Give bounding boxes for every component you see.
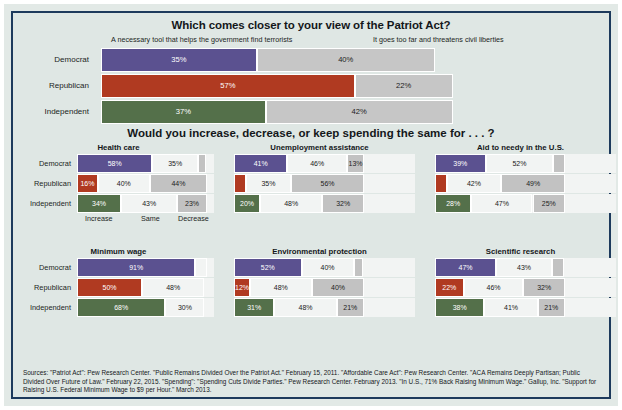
spending-panel: Aid to needy in the U.S.39%52%42%49%28%4…	[425, 143, 616, 214]
spending-bar-segment: 42%	[447, 174, 502, 193]
spending-title: Would you increase, decrease, or keep sp…	[23, 127, 599, 139]
spending-bar-segment: 30%	[165, 298, 204, 317]
spending-bar-segment: 22%	[435, 278, 464, 297]
spending-panel-title: Minimum wage	[23, 247, 214, 256]
poster-frame: Which comes closer to your view of the P…	[11, 11, 611, 399]
spending-panel: Unemployment assistance41%46%13%35%56%20…	[224, 143, 415, 214]
spending-bar-segment: 20%	[234, 194, 260, 213]
patriot-act-row-track: 57%22%	[101, 74, 599, 98]
spending-row: 41%46%13%	[224, 154, 415, 173]
spending-row-label: Democrat	[23, 154, 75, 173]
spending-row: 12%48%40%	[224, 278, 415, 297]
spending-row-track: 68%30%	[77, 298, 214, 317]
spending-bar-segment: 28%	[435, 194, 471, 213]
spending-row: Democrat58%35%	[23, 154, 214, 173]
patriot-act-bar-segment: 42%	[266, 100, 453, 124]
spending-bar-segment: 13%	[347, 154, 364, 173]
spending-panel-title: Aid to needy in the U.S.	[425, 143, 616, 152]
spending-row-track: 28%47%25%	[435, 194, 616, 213]
spending-bar-segment	[435, 174, 447, 193]
patriot-act-row: Independent37%42%	[23, 100, 599, 124]
spending-bar-segment: 44%	[150, 174, 207, 193]
spending-bar-segment: 47%	[435, 258, 496, 277]
spending-axis-labels: IncreaseSameDecrease	[23, 214, 214, 225]
spending-row-track: 12%48%40%	[234, 278, 415, 297]
spending-panel: Environmental protection52%40%12%48%40%3…	[224, 247, 415, 318]
spending-bar-segment: 35%	[152, 154, 198, 173]
patriot-act-bar-segment: 35%	[101, 48, 257, 72]
spending-bar-segment: 16%	[77, 174, 98, 193]
spending-row-label: Democrat	[23, 258, 75, 277]
spending-bar-segment: 48%	[274, 298, 336, 317]
spending-row: 52%40%	[224, 258, 415, 277]
spending-row-track: 16%40%44%	[77, 174, 214, 193]
spending-row-track: 34%43%23%	[77, 194, 214, 213]
spending-row: 22%46%32%	[425, 278, 616, 297]
patriot-act-row-track: 35%40%	[101, 48, 599, 72]
patriot-act-title: Which comes closer to your view of the P…	[23, 19, 599, 31]
patriot-act-row-track: 37%42%	[101, 100, 599, 124]
patriot-act-legend: A necessary tool that helps the governme…	[23, 34, 599, 47]
spending-bar-segment	[552, 258, 564, 277]
spending-bar-segment	[354, 258, 363, 277]
spending-bar-segment: 12%	[234, 278, 250, 297]
spending-panel-grid: Health careDemocrat58%35%Republican16%40…	[23, 143, 599, 348]
legend-too-far: It goes too far and threatens civil libe…	[373, 35, 504, 44]
spending-row-track: 35%56%	[234, 174, 415, 193]
spending-bar-segment: 50%	[77, 278, 142, 297]
spending-panel-title: Scientific research	[425, 247, 616, 256]
spending-bar-segment: 68%	[77, 298, 165, 317]
spending-bar-segment: 41%	[484, 298, 537, 317]
patriot-act-row-label: Independent	[23, 100, 95, 124]
axis-label-same: Same	[141, 214, 160, 223]
spending-bar-segment: 25%	[533, 194, 566, 213]
spending-bar-segment: 41%	[234, 154, 287, 173]
spending-row: 31%48%21%	[224, 298, 415, 317]
spending-bar-segment: 48%	[142, 278, 204, 297]
patriot-act-row-label: Republican	[23, 74, 95, 98]
spending-bar-segment: 31%	[234, 298, 274, 317]
spending-row: Independent34%43%23%	[23, 194, 214, 213]
legend-necessary-tool: A necessary tool that helps the governme…	[111, 35, 292, 44]
spending-panel: Scientific research47%43%22%46%32%38%41%…	[425, 247, 616, 318]
spending-bar-segment: 46%	[464, 278, 524, 297]
spending-row-label: Republican	[23, 174, 75, 193]
spending-bar-segment: 52%	[234, 258, 302, 277]
spending-bar-segment	[553, 154, 565, 173]
spending-row-track: 22%46%32%	[435, 278, 616, 297]
spending-bar-segment: 43%	[496, 258, 552, 277]
sources-note: Sources: "Patriot Act": Pew Research Cen…	[23, 369, 601, 395]
spending-panel-title: Environmental protection	[224, 247, 415, 256]
spending-bar-segment: 23%	[177, 194, 207, 213]
spending-bar-segment: 40%	[302, 258, 354, 277]
spending-bar-segment: 47%	[471, 194, 532, 213]
spending-row: 28%47%25%	[425, 194, 616, 213]
spending-bar-segment: 58%	[77, 154, 152, 173]
spending-row: Republican16%40%44%	[23, 174, 214, 193]
spending-row-track: 91%	[77, 258, 214, 277]
infographic-poster: Which comes closer to your view of the P…	[0, 0, 622, 410]
spending-row-track: 58%35%	[77, 154, 214, 173]
spending-bar-segment: 46%	[287, 154, 347, 173]
spending-bar-segment: 43%	[121, 194, 177, 213]
spending-row: 38%41%21%	[425, 298, 616, 317]
spending-panel: Minimum wageDemocrat91%Republican50%48%I…	[23, 247, 214, 318]
spending-panel-title: Health care	[23, 143, 214, 152]
spending-row-label: Republican	[23, 278, 75, 297]
spending-bar-segment: 48%	[260, 194, 322, 213]
spending-row-track: 50%48%	[77, 278, 214, 297]
spending-bar-segment: 48%	[250, 278, 312, 297]
spending-row: 20%48%32%	[224, 194, 415, 213]
patriot-act-bar-segment: 37%	[101, 100, 266, 124]
spending-bar-segment: 34%	[77, 194, 121, 213]
spending-bar-segment	[195, 258, 207, 277]
spending-row: Democrat91%	[23, 258, 214, 277]
spending-row-track: 39%52%	[435, 154, 616, 173]
spending-bar-segment: 21%	[337, 298, 364, 317]
spending-panel-title: Unemployment assistance	[224, 143, 415, 152]
spending-row: 47%43%	[425, 258, 616, 277]
axis-label-increase: Increase	[85, 214, 113, 223]
patriot-act-row: Republican57%22%	[23, 74, 599, 98]
patriot-act-bar-segment: 57%	[101, 74, 355, 98]
spending-bar-segment	[198, 154, 206, 173]
